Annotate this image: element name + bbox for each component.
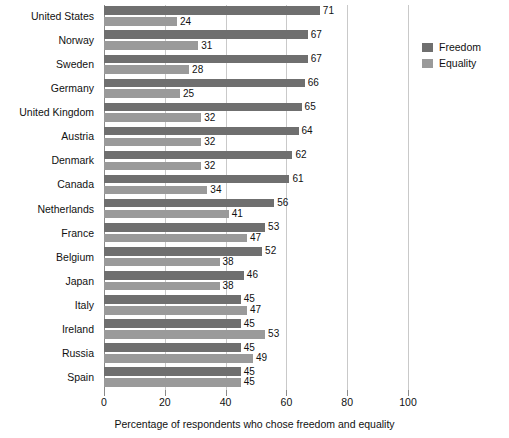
- bar-freedom[interactable]: [104, 127, 299, 136]
- bar-group: 6432: [104, 125, 408, 149]
- bar-freedom[interactable]: [104, 319, 241, 328]
- bar-group: 6532: [104, 101, 408, 125]
- bar-value-label: 32: [201, 161, 215, 171]
- bar-value-label: 64: [299, 126, 313, 136]
- bar-equality[interactable]: [104, 65, 189, 74]
- bar-group: 6232: [104, 149, 408, 173]
- bar-group: 4549: [104, 342, 408, 366]
- bar-equality[interactable]: [104, 162, 201, 171]
- category-label: France: [61, 228, 94, 239]
- category-label: Ireland: [62, 324, 94, 335]
- category-label: Japan: [65, 276, 94, 287]
- bar-value-label: 25: [180, 89, 194, 99]
- bar-freedom[interactable]: [104, 295, 241, 304]
- x-tick-label-20: 20: [159, 396, 171, 408]
- category-label: Canada: [57, 179, 94, 190]
- bar-freedom[interactable]: [104, 343, 241, 352]
- bar-value-label: 53: [265, 329, 279, 339]
- bar-equality[interactable]: [104, 330, 265, 339]
- bar-value-label: 65: [302, 102, 316, 112]
- bar-group: 6134: [104, 173, 408, 197]
- bar-equality[interactable]: [104, 258, 220, 267]
- bar-group: 4545: [104, 366, 408, 390]
- bar-equality[interactable]: [104, 282, 220, 291]
- bar-value-label: 28: [189, 65, 203, 75]
- bar-equality[interactable]: [104, 186, 207, 195]
- category-label: United States: [31, 11, 94, 22]
- bar-equality[interactable]: [104, 378, 241, 387]
- bar-group: 4638: [104, 270, 408, 294]
- bar-freedom[interactable]: [104, 175, 289, 184]
- legend-item-freedom[interactable]: Freedom: [422, 41, 506, 53]
- bar-equality[interactable]: [104, 113, 201, 122]
- bar-group: 5238: [104, 246, 408, 270]
- bar-value-label: 45: [241, 319, 255, 329]
- category-label: Belgium: [56, 252, 94, 263]
- bar-value-label: 56: [274, 198, 288, 208]
- bar-equality[interactable]: [104, 210, 229, 219]
- bar-value-label: 45: [241, 367, 255, 377]
- bar-chart: United StatesNorwaySwedenGermanyUnited K…: [0, 0, 509, 438]
- bar-freedom[interactable]: [104, 271, 244, 280]
- x-tick-label-40: 40: [220, 396, 232, 408]
- bar-equality[interactable]: [104, 306, 247, 315]
- bar-value-label: 46: [244, 270, 258, 280]
- bar-value-label: 41: [229, 209, 243, 219]
- bar-freedom[interactable]: [104, 223, 265, 232]
- bar-value-label: 67: [308, 30, 322, 40]
- bar-value-label: 53: [265, 222, 279, 232]
- bar-value-label: 31: [198, 41, 212, 51]
- bar-freedom[interactable]: [104, 30, 308, 39]
- bar-group: 4553: [104, 318, 408, 342]
- bar-value-label: 61: [289, 174, 303, 184]
- bar-equality[interactable]: [104, 138, 201, 147]
- bar-group: 5347: [104, 222, 408, 246]
- bar-group: 5641: [104, 198, 408, 222]
- bar-freedom[interactable]: [104, 55, 308, 64]
- bar-group: 6731: [104, 29, 408, 53]
- legend-swatch-freedom: [422, 43, 433, 52]
- x-tick-label-100: 100: [399, 396, 417, 408]
- bar-value-label: 32: [201, 113, 215, 123]
- bar-value-label: 47: [247, 305, 261, 315]
- x-tick-label-80: 80: [341, 396, 353, 408]
- legend-label-equality: Equality: [439, 58, 476, 69]
- bar-equality[interactable]: [104, 234, 247, 243]
- bar-equality[interactable]: [104, 41, 198, 50]
- bar-freedom[interactable]: [104, 103, 302, 112]
- bar-freedom[interactable]: [104, 367, 241, 376]
- legend-label-freedom: Freedom: [439, 42, 481, 53]
- category-label: Austria: [61, 131, 94, 142]
- x-axis-caption: Percentage of respondents who chose free…: [0, 418, 509, 431]
- bar-value-label: 32: [201, 137, 215, 147]
- bar-value-label: 38: [220, 257, 234, 267]
- legend-swatch-equality: [422, 59, 433, 68]
- bar-freedom[interactable]: [104, 151, 292, 160]
- category-label: Italy: [75, 300, 94, 311]
- category-label: Sweden: [56, 59, 94, 70]
- category-axis-labels: United StatesNorwaySwedenGermanyUnited K…: [0, 5, 98, 390]
- category-label: Spain: [67, 372, 94, 383]
- category-label: Germany: [51, 83, 94, 94]
- bar-equality[interactable]: [104, 89, 180, 98]
- gridline-100: [408, 5, 409, 390]
- bar-value-label: 62: [292, 150, 306, 160]
- bar-freedom[interactable]: [104, 6, 320, 15]
- legend-item-equality[interactable]: Equality: [422, 57, 506, 69]
- category-label: Norway: [58, 35, 94, 46]
- x-tick-label-0: 0: [101, 396, 107, 408]
- category-label: Russia: [62, 348, 94, 359]
- bar-value-label: 67: [308, 54, 322, 64]
- bar-group: 4547: [104, 294, 408, 318]
- bar-value-label: 38: [220, 281, 234, 291]
- bar-value-label: 45: [241, 343, 255, 353]
- bar-equality[interactable]: [104, 17, 177, 26]
- bar-value-label: 47: [247, 233, 261, 243]
- bar-equality[interactable]: [104, 354, 253, 363]
- bar-freedom[interactable]: [104, 79, 305, 88]
- x-axis-tick-labels: 020406080100: [104, 396, 408, 410]
- legend: Freedom Equality: [422, 41, 506, 73]
- category-label: United Kingdom: [19, 107, 94, 118]
- bar-freedom[interactable]: [104, 247, 262, 256]
- bar-freedom[interactable]: [104, 199, 274, 208]
